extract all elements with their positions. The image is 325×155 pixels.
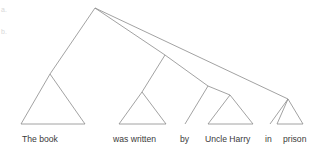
terminal-label-prison: prison: [283, 135, 306, 144]
triangle-uncle-harry: [208, 95, 253, 124]
terminal-label-uncle-harry: Uncle Harry: [205, 135, 250, 144]
terminal-label-by: by: [180, 135, 189, 144]
terminal-label-was-written: was written: [113, 135, 156, 144]
terminal-label-in: in: [265, 135, 272, 144]
branch-root-to-vp: [95, 8, 165, 55]
triangle-prison: [277, 99, 303, 124]
branch-vp-to-pp-by: [165, 55, 208, 86]
branch-pp-by-to-by: [185, 86, 208, 124]
triangle-was-written: [119, 92, 166, 124]
terminal-label-the-book: The book: [22, 135, 58, 144]
margin-mark-b: b.: [1, 28, 7, 35]
constituent-triangles-group: [21, 74, 303, 124]
margin-mark-a: a.: [1, 6, 7, 13]
tree-diagram-canvas: [0, 0, 325, 155]
branch-lines-group: [50, 8, 288, 124]
branch-root-to-subject: [50, 8, 95, 74]
branch-pp-by-to-uncle-harry: [208, 86, 230, 95]
branch-root-to-pp-in: [95, 8, 288, 99]
syntax-tree-figure: The book was written by Uncle Harry in p…: [0, 0, 325, 155]
branch-vp-to-verb: [142, 55, 165, 92]
triangle-the-book: [21, 74, 85, 124]
